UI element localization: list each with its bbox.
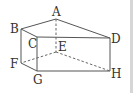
vertex-label-e: E [58,40,67,54]
vertex-label-d: D [111,32,121,46]
edge-ab [21,19,56,29]
vertex-label-b: B [10,22,19,36]
vertex-label-g: G [33,73,43,87]
edge-bc [21,29,37,37]
edge-cd [37,37,110,38]
prism-diagram: A B C D E F G H [0,0,133,93]
vertex-label-h: H [111,67,121,81]
edge-fg [21,63,37,71]
vertex-label-c: C [28,37,37,51]
vertex-label-a: A [51,5,61,19]
edge-ad [56,19,110,38]
right-border-bar [130,0,133,93]
hidden-edge-ef [21,52,56,63]
hidden-edge-eh [56,52,110,71]
vertex-label-f: F [10,57,18,71]
